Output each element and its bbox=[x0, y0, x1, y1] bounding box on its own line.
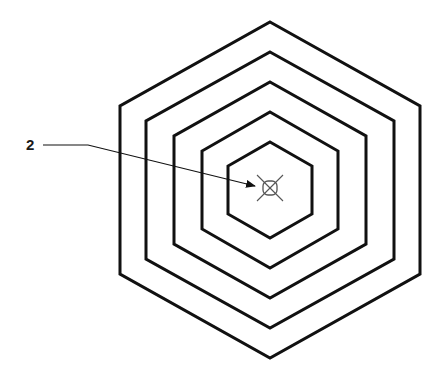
hexagon-ring-2 bbox=[146, 52, 394, 328]
crossed-circle-marker-icon bbox=[257, 175, 283, 201]
hexagon-ring-4 bbox=[202, 112, 338, 268]
hexagon-ring-1 bbox=[120, 22, 420, 358]
diagram-canvas bbox=[0, 0, 448, 381]
hexagon-ring-5 bbox=[228, 142, 312, 238]
callout-leader-line bbox=[43, 145, 255, 186]
callout-label: 2 bbox=[26, 137, 34, 152]
hexagon-rings bbox=[120, 22, 420, 358]
